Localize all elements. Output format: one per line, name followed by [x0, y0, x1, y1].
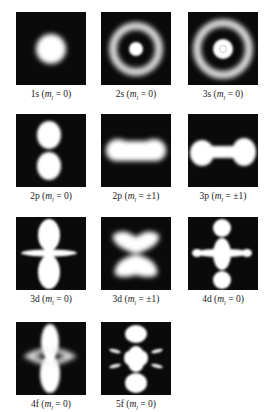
orbital-1s-label: 1s (ml = 0) [6, 89, 96, 101]
orbital-2p0-label: 2p (ml = 0) [6, 191, 96, 203]
orbital-2p1-label: 2p (ml = ±1) [91, 191, 181, 203]
orbital-4d0-label: 4d (ml = 0) [178, 294, 268, 306]
orbital-3s-label: 3s (ml = 0) [178, 89, 268, 101]
orbital-1s-image [16, 12, 86, 85]
orbital-3s-image [188, 12, 258, 85]
orbital-4f0-label: 4f (ml = 0) [6, 399, 96, 411]
orbital-3d0-label: 3d (ml = 0) [6, 294, 96, 306]
orbital-3d0-image [16, 217, 86, 290]
orbital-2p1-image [101, 114, 171, 187]
orbital-2s-image [101, 12, 171, 85]
orbital-3d1-image [101, 217, 171, 290]
orbital-2s-label: 2s (ml = 0) [91, 89, 181, 101]
orbital-5f0-image [101, 322, 171, 395]
orbital-3d1-label: 3d (ml = ±1) [91, 294, 181, 306]
orbital-3p1-label: 3p (ml = ±1) [178, 191, 268, 203]
orbital-4f0-image [16, 322, 86, 395]
orbital-4d0-image [188, 217, 258, 290]
orbital-3p1-image [188, 114, 258, 187]
orbital-2p0-image [16, 114, 86, 187]
orbital-5f0-label: 5f (ml = 0) [91, 399, 181, 411]
